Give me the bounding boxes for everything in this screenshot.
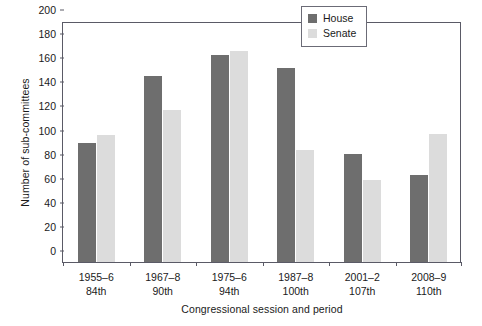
y-axis-tick-label: 80 [44, 149, 60, 160]
x-axis-tick-label: 1987–8100th [278, 270, 313, 298]
x-axis-tick-label-session: 90th [145, 284, 180, 298]
x-axis-tick-label-period: 1987–8 [278, 270, 313, 284]
bar-senate [429, 134, 447, 262]
y-axis-tick-label: 200 [38, 5, 60, 16]
x-axis-tick-label-session: 107th [345, 284, 380, 298]
y-axis-tick-mark [60, 58, 64, 59]
y-axis-tick-mark [60, 202, 64, 203]
x-axis-tick-mark [329, 262, 330, 266]
y-axis-tick-mark [60, 251, 64, 252]
x-axis-tick-label-period: 1975–6 [212, 270, 247, 284]
x-axis-tick-mark [263, 262, 264, 266]
legend-swatch-house [308, 14, 317, 23]
x-axis-tick-label: 2001–2107th [345, 270, 380, 298]
x-axis-tick-mark [130, 262, 131, 266]
y-axis-tick: 60 [44, 173, 63, 184]
legend-label-house: House [323, 11, 353, 26]
x-axis-tick-label-session: 84th [79, 284, 114, 298]
x-axis-tick-mark [396, 262, 397, 266]
x-axis-tick-mark [63, 262, 64, 266]
y-axis-tick: 140 [38, 77, 63, 88]
y-axis-tick-mark [60, 82, 64, 83]
y-axis-tick-mark [60, 10, 64, 11]
x-axis-title: Congressional session and period [62, 303, 462, 315]
bar-house [211, 55, 229, 262]
y-axis-tick-label: 20 [44, 221, 60, 232]
bar-senate [230, 51, 248, 262]
bar-house [144, 76, 162, 262]
y-axis-tick: 160 [38, 53, 63, 64]
chart-legend: House Senate [301, 6, 367, 47]
x-axis-tick-label-session: 94th [212, 284, 247, 298]
x-axis-tick-label-period: 1955–6 [79, 270, 114, 284]
x-axis-tick-label: 2008–9110th [411, 270, 446, 298]
y-axis-tick: 20 [44, 221, 63, 232]
y-axis-tick-label: 0 [50, 246, 60, 257]
y-axis-tick: 80 [44, 149, 63, 160]
x-axis-tick-label-period: 1967–8 [145, 270, 180, 284]
x-axis-tick-label-period: 2001–2 [345, 270, 380, 284]
plot-area: 0204060801001201401601802001955–684th196… [62, 22, 461, 263]
bar-senate [296, 150, 314, 262]
bar-house [344, 154, 362, 262]
y-axis-tick-label: 100 [38, 125, 60, 136]
y-axis-tick-label: 60 [44, 173, 60, 184]
y-axis-tick-label: 120 [38, 101, 60, 112]
bar-house [78, 143, 96, 262]
legend-item-senate: Senate [308, 26, 356, 41]
y-axis-title: Number of sub-committees [14, 22, 35, 263]
y-axis-tick: 180 [38, 29, 63, 40]
y-axis-tick-label: 160 [38, 53, 60, 64]
x-axis-tick-mark [196, 262, 197, 266]
y-axis-tick-mark [60, 130, 64, 131]
y-axis-tick: 40 [44, 197, 63, 208]
legend-item-house: House [308, 11, 356, 26]
y-axis-tick-mark [60, 34, 64, 35]
y-axis-tick-mark [60, 106, 64, 107]
legend-label-senate: Senate [323, 26, 356, 41]
x-axis-tick-label: 1967–890th [145, 270, 180, 298]
bar-senate [363, 180, 381, 262]
y-axis-tick-mark [60, 226, 64, 227]
y-axis-tick-label: 180 [38, 29, 60, 40]
y-axis-tick: 0 [50, 246, 63, 257]
legend-swatch-senate [308, 29, 317, 38]
x-axis-tick-label-period: 2008–9 [411, 270, 446, 284]
y-axis-tick-label: 40 [44, 197, 60, 208]
bar-house [277, 68, 295, 262]
bar-house [410, 175, 428, 262]
x-axis-tick-label: 1975–694th [212, 270, 247, 298]
x-axis-tick-mark [461, 262, 462, 266]
y-axis-tick-label: 140 [38, 77, 60, 88]
y-axis-tick: 100 [38, 125, 63, 136]
y-axis-tick: 120 [38, 101, 63, 112]
bar-senate [97, 135, 115, 262]
x-axis-tick-label: 1955–684th [79, 270, 114, 298]
x-axis-tick-label-session: 110th [411, 284, 446, 298]
bar-senate [163, 110, 181, 262]
x-axis-tick-label-session: 100th [278, 284, 313, 298]
y-axis-tick-mark [60, 178, 64, 179]
bar-chart-figure: Number of sub-committees 020406080100120… [0, 0, 482, 326]
y-axis-tick: 200 [38, 5, 63, 16]
y-axis-tick-mark [60, 154, 64, 155]
